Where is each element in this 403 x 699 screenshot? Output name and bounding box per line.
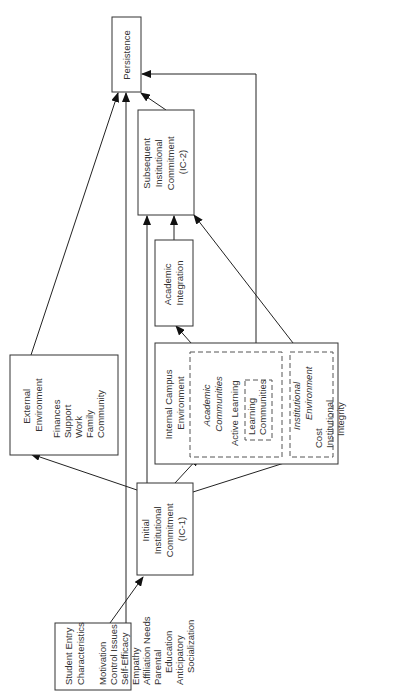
node-persistence: Persistence — [112, 17, 141, 92]
svg-text:Persistence: Persistence — [121, 30, 132, 80]
external-item: Family — [84, 410, 95, 438]
student-entry-title-1: Student Entry — [63, 627, 74, 685]
student-entry-item: Motivation — [97, 642, 108, 685]
academic-communities-title-2: Communities — [213, 376, 224, 432]
institutional-environment-title-1: Institutional — [291, 381, 302, 430]
ic1-line: Institutional — [152, 506, 163, 554]
external-item: Support — [62, 404, 73, 438]
student-entry-title-2: Characteristics — [75, 622, 86, 685]
academic-integration-line: Academic — [162, 263, 173, 305]
academic-communities-item: Active Learning — [229, 381, 240, 446]
institutional-environment-extra: Integrity — [335, 402, 346, 436]
learning-communities-line: Learning — [246, 398, 257, 435]
student-entry-item: Affiliation Needs — [141, 616, 152, 685]
ic1-line: Commitment — [164, 503, 175, 557]
external-item: Work — [73, 416, 84, 438]
edge-ic1-to-external — [31, 454, 137, 490]
svg-text:Academic Communities: Academic Communities — [201, 376, 224, 432]
student-entry-item: Empathy — [130, 647, 141, 685]
institutional-environment-title-2: Environment — [303, 366, 314, 420]
academic-integration-line: Integration — [174, 261, 185, 306]
external-title-2: Environment — [33, 378, 44, 432]
institutional-environment-item: Cost — [313, 428, 324, 448]
institutional-environment-item: Integrity — [335, 402, 346, 436]
node-initial-institutional-commitment: Initial Institutional Commitment (IC-1) — [137, 483, 193, 575]
node-student-entry: Student Entry Characteristics Motivation… — [55, 614, 196, 690]
student-entry-item: Socialization — [185, 620, 196, 673]
student-entry-item: Control Issues — [108, 624, 119, 685]
edge-ic2-to-persistence — [141, 93, 166, 110]
ic2-line: Subsequent — [141, 138, 152, 189]
ic1-line: Initial — [140, 519, 151, 541]
edge-institutional-environment-to-ic2 — [194, 215, 300, 352]
external-item: Community — [95, 390, 106, 438]
student-entry-item: Anticipatory — [174, 635, 185, 685]
internal-title-1: Internal Campus — [163, 369, 174, 439]
student-entry-item: Education — [163, 631, 174, 673]
node-internal-campus-environment: Internal Campus Environment Academic Com… — [155, 343, 338, 464]
external-title-1: External — [21, 389, 32, 424]
node-academic-integration: Academic Integration — [155, 240, 193, 326]
ic2-line: Commitment — [165, 136, 176, 190]
student-entry-item: Self-Efficacy — [119, 632, 130, 685]
persistence-model-diagram: Student Entry Characteristics Motivation… — [0, 0, 403, 699]
ic2-line: (IC-2) — [177, 150, 188, 174]
edge-external-to-persistence — [31, 93, 118, 355]
external-item: Finances — [51, 399, 62, 438]
svg-text:Active Learning: Active Learning — [229, 381, 240, 446]
academic-communities-title-1: Academic — [201, 384, 212, 427]
svg-text:Integrity: Integrity — [335, 402, 346, 436]
learning-communities-line: Communities — [257, 379, 268, 435]
node-subsequent-institutional-commitment: Subsequent Institutional Commitment (IC-… — [138, 110, 194, 215]
institutional-environment-item: Institutional — [324, 400, 335, 448]
svg-text:Internal Campus Enviro: Internal Campus Environment — [163, 367, 186, 439]
node-external-environment: External Environment Finances Support Wo… — [10, 355, 118, 455]
ic2-line: Institutional — [153, 139, 164, 187]
svg-text:Academic Integration: Academic Integration — [162, 261, 185, 306]
internal-title-2: Environment — [175, 376, 186, 430]
ic1-line: (IC-1) — [176, 517, 187, 541]
student-entry-item: Parental — [152, 650, 163, 685]
persistence-label: Persistence — [121, 30, 132, 80]
